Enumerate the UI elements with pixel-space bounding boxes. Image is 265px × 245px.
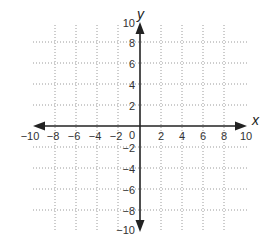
origin-label: 0 <box>129 129 135 141</box>
y-tick-label: 6 <box>129 58 135 70</box>
x-tick-label: −2 <box>110 130 123 142</box>
y-tick-label: 8 <box>129 37 135 49</box>
x-tick-label: −10 <box>21 130 40 142</box>
y-tick-label: −8 <box>122 205 135 217</box>
coordinate-plane: x y 0 −10 −8 −6 −4 −2 2 4 6 8 10 10 8 6 … <box>0 0 265 245</box>
x-tick-labels: −10 −8 −6 −4 −2 2 4 6 8 10 <box>21 130 252 142</box>
x-tick-label: 8 <box>221 130 227 142</box>
y-axis-up-arrow-icon <box>136 22 145 34</box>
x-tick-label: −4 <box>89 130 102 142</box>
y-axis-label: y <box>136 6 145 22</box>
y-tick-label: 10 <box>123 17 135 29</box>
y-tick-label: 4 <box>129 79 135 91</box>
x-tick-label: 4 <box>179 130 185 142</box>
x-tick-label: 6 <box>200 130 206 142</box>
y-tick-label: −10 <box>116 224 135 236</box>
x-tick-label: 2 <box>158 130 164 142</box>
x-tick-label: −8 <box>47 130 60 142</box>
y-tick-label: −6 <box>122 184 135 196</box>
y-axis-down-arrow-icon <box>136 220 145 232</box>
y-tick-label: 2 <box>129 100 135 112</box>
x-axis-label: x <box>251 112 260 128</box>
y-axis <box>136 22 145 232</box>
x-tick-label: 10 <box>240 130 252 142</box>
y-tick-label: −4 <box>122 163 135 175</box>
x-tick-label: −6 <box>68 130 81 142</box>
y-tick-label: −2 <box>122 142 135 154</box>
